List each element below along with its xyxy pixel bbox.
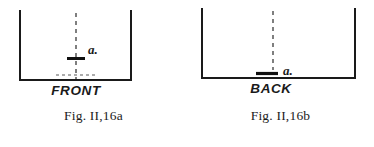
figure-panel-a: a. FRONT Fig. II,16a: [0, 0, 187, 147]
marker-label-a: a.: [88, 42, 98, 57]
marker-label-b: a.: [283, 63, 293, 78]
figure-panel-b: a. BACK Fig. II,16b: [187, 0, 374, 147]
figure-plate: a. FRONT Fig. II,16a a. BACK Fig: [0, 0, 374, 147]
base-label-back: BACK: [250, 81, 292, 96]
base-label-front: FRONT: [51, 83, 102, 98]
figure-a-caption: Fig. II,16a: [0, 108, 187, 124]
vessel-outline-b: [202, 9, 355, 78]
figure-b-caption: Fig. II,16b: [187, 108, 374, 124]
figure-a-drawing: a. FRONT: [0, 0, 187, 100]
figure-b-drawing: a. BACK: [187, 0, 374, 100]
